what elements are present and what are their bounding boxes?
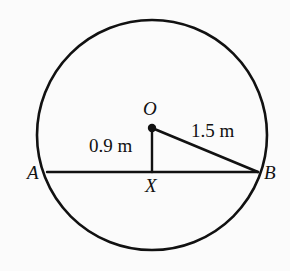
measurement-label-ob: 1.5 m	[191, 121, 234, 140]
measurement-label-ox: 0.9 m	[89, 136, 132, 155]
geometry-diagram: O A B X 0.9 m 1.5 m	[0, 0, 290, 271]
point-label-o: O	[143, 99, 157, 118]
point-label-x: X	[145, 176, 157, 195]
geometry-figure-svg	[0, 0, 290, 271]
point-label-b: B	[264, 163, 276, 182]
point-label-a: A	[27, 163, 39, 182]
center-point-dot	[148, 124, 156, 132]
